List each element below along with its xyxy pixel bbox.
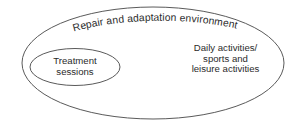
- inner-ellipse-label: Treatment sessions: [31, 56, 119, 77]
- outer-region-label-line-3: leisure activities: [179, 64, 272, 75]
- outer-region-label-line-1: Daily activities/: [179, 43, 272, 54]
- outer-ellipse-label-textpath: Repair and adaptation environment: [71, 12, 238, 34]
- inner-ellipse-label-line-2: sessions: [31, 67, 119, 78]
- outer-ellipse-label: Repair and adaptation environment: [71, 12, 238, 34]
- inner-ellipse-label-line-1: Treatment: [31, 56, 119, 67]
- outer-region-label: Daily activities/ sports and leisure act…: [179, 43, 272, 75]
- diagram-canvas: Repair and adaptation environment Treatm…: [0, 0, 301, 131]
